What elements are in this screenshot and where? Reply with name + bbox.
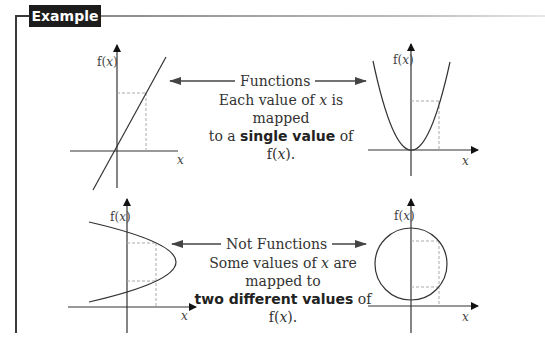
graph-linear: f(x) x <box>70 45 184 190</box>
y-axis-label: f(x) <box>394 209 415 223</box>
x-axis-label: x <box>462 310 469 324</box>
y-axis-label: f(x) <box>110 210 131 224</box>
x-axis-label: x <box>462 154 469 168</box>
y-axis-label: f(x) <box>393 53 414 67</box>
linear-curve <box>93 57 166 190</box>
graph-parabola: f(x) x <box>368 44 478 176</box>
functions-caption-line2: to a single value of f(x). <box>196 127 366 163</box>
x-axis-label: x <box>177 153 184 167</box>
graph-circle: f(x) x <box>368 199 478 333</box>
sideways-parabola-curve <box>89 222 176 302</box>
functions-caption: Each value of x is mapped to a single va… <box>196 91 366 163</box>
y-axis-label: f(x) <box>97 55 118 69</box>
functions-caption-line1: Each value of x is mapped <box>196 91 366 127</box>
not-functions-caption: Some values of x are mapped to two diffe… <box>183 254 383 326</box>
not-functions-caption-line2: two different values of f(x). <box>183 290 383 326</box>
graph-sideways-parabola: f(x) x <box>68 199 196 333</box>
not-functions-caption-line1: Some values of x are mapped to <box>183 254 383 290</box>
functions-label: Functions <box>235 73 315 89</box>
not-functions-label: Not Functions <box>221 236 332 252</box>
